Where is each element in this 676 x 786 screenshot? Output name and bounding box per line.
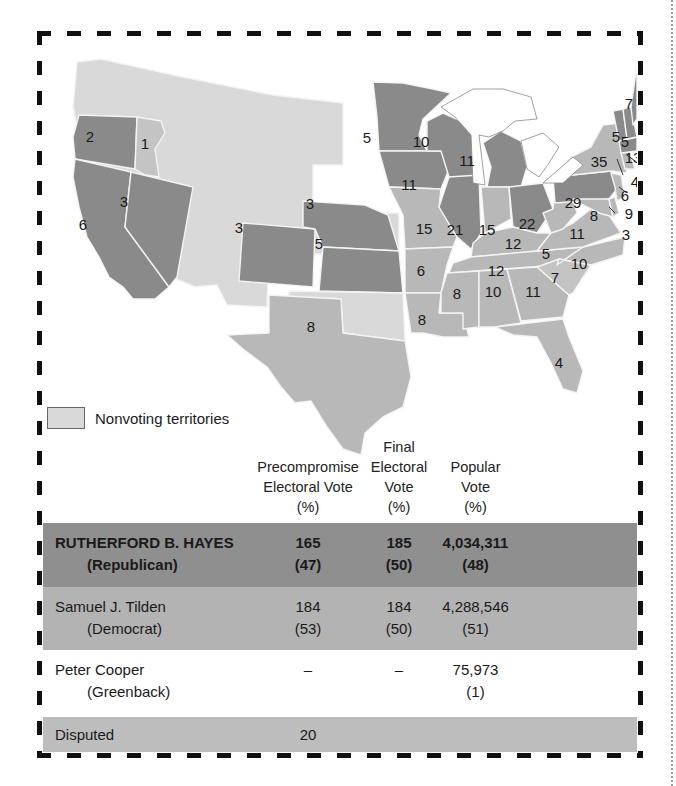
candidate-name: Peter Cooper (Greenback) <box>55 659 170 703</box>
svg-text:10: 10 <box>571 255 588 272</box>
svg-text:3: 3 <box>120 193 128 210</box>
svg-text:15: 15 <box>416 220 433 237</box>
svg-text:12: 12 <box>488 262 505 279</box>
svg-text:4: 4 <box>555 354 563 371</box>
svg-text:10: 10 <box>485 283 502 300</box>
final-electoral-votes: 185(50) <box>363 532 435 576</box>
svg-text:6: 6 <box>79 216 87 233</box>
svg-text:11: 11 <box>525 283 541 300</box>
results-table: Precompromise Electoral Vote (%) Final E… <box>43 440 637 752</box>
svg-text:5: 5 <box>612 128 620 145</box>
svg-text:5: 5 <box>621 133 629 150</box>
precompromise-votes: 184(53) <box>253 596 363 640</box>
svg-text:9: 9 <box>625 205 633 222</box>
precompromise-votes: 165(47) <box>253 532 363 576</box>
legend-swatch-nonvoting <box>47 407 85 429</box>
svg-text:8: 8 <box>418 311 426 328</box>
candidate-name: Samuel J. Tilden (Democrat) <box>55 596 166 640</box>
state-co <box>239 223 315 287</box>
candidate-name: RUTHERFORD B. HAYES (Republican) <box>55 532 234 576</box>
table-row-cooper: Peter Cooper (Greenback) – – 75,973(1) <box>43 650 637 717</box>
header-precompromise: Precompromise Electoral Vote (%) <box>253 457 363 517</box>
popular-votes: 4,288,546(51) <box>428 596 523 640</box>
table-header: Precompromise Electoral Vote (%) Final E… <box>43 440 637 523</box>
svg-text:12: 12 <box>505 235 522 252</box>
svg-text:3: 3 <box>622 226 630 243</box>
svg-text:3: 3 <box>306 195 314 212</box>
table-row-tilden: Samuel J. Tilden (Democrat) 184(53) 184(… <box>43 587 637 650</box>
frame-border-left <box>37 31 42 758</box>
frame-border-right <box>638 31 643 758</box>
svg-text:6: 6 <box>621 187 629 204</box>
state-fl <box>495 319 583 393</box>
popular-votes: 4,034,311(48) <box>428 532 523 576</box>
svg-text:7: 7 <box>625 95 633 112</box>
svg-text:4: 4 <box>631 173 637 190</box>
state-ks <box>319 247 403 293</box>
disputed-votes: 20 <box>253 724 363 746</box>
table-row-hayes: RUTHERFORD B. HAYES (Republican) 165(47)… <box>43 523 637 587</box>
frame-border-bottom <box>37 753 643 758</box>
figure-content: 2 1 6 3 3 3 5 8 5 11 15 6 8 10 21 11 15 <box>43 37 637 752</box>
svg-text:15: 15 <box>479 221 496 238</box>
svg-text:8: 8 <box>453 285 461 302</box>
figure-frame: 2 1 6 3 3 3 5 8 5 11 15 6 8 10 21 11 15 <box>37 31 643 758</box>
frame-border-top <box>37 31 643 36</box>
svg-text:21: 21 <box>447 221 464 238</box>
svg-text:8: 8 <box>307 318 315 335</box>
precompromise-votes: – <box>253 659 363 681</box>
election-map: 2 1 6 3 3 3 5 8 5 11 15 6 8 10 21 11 15 <box>43 37 637 457</box>
state-mi <box>483 131 527 187</box>
svg-text:13: 13 <box>625 149 637 166</box>
svg-text:5: 5 <box>363 129 371 146</box>
map-legend: Nonvoting territories <box>47 407 229 429</box>
final-electoral-votes: – <box>363 659 435 681</box>
page-margin-dotted-rule <box>671 0 673 786</box>
svg-text:11: 11 <box>401 176 417 193</box>
table-row-disputed: Disputed 20 <box>43 717 637 752</box>
header-popular: Popular Vote (%) <box>428 457 523 517</box>
svg-text:22: 22 <box>519 215 536 232</box>
header-final-electoral: Final Electoral Vote (%) <box>363 437 435 517</box>
row-label: Disputed <box>55 724 114 746</box>
us-map-svg: 2 1 6 3 3 3 5 8 5 11 15 6 8 10 21 11 15 <box>43 37 637 457</box>
svg-text:2: 2 <box>86 128 94 145</box>
svg-text:7: 7 <box>551 269 559 286</box>
svg-text:11: 11 <box>459 152 475 169</box>
svg-text:6: 6 <box>417 262 425 279</box>
popular-votes: 75,973(1) <box>428 659 523 703</box>
legend-label: Nonvoting territories <box>95 410 229 427</box>
svg-text:35: 35 <box>591 153 608 170</box>
svg-text:8: 8 <box>590 207 598 224</box>
final-electoral-votes: 184(50) <box>363 596 435 640</box>
svg-text:5: 5 <box>315 235 323 252</box>
svg-text:5: 5 <box>542 245 550 262</box>
svg-text:11: 11 <box>569 225 585 242</box>
svg-text:3: 3 <box>235 219 243 236</box>
svg-text:1: 1 <box>141 135 149 152</box>
svg-text:29: 29 <box>565 194 582 211</box>
svg-text:10: 10 <box>413 133 430 150</box>
